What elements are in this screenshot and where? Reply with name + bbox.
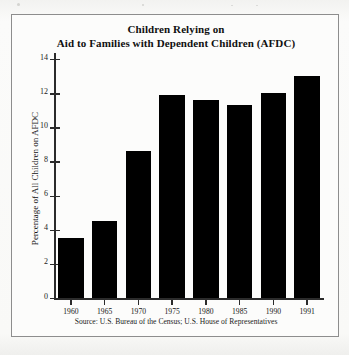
y-tick-mark	[50, 161, 60, 162]
x-tick-mark-1965	[104, 298, 105, 305]
y-tick-mark	[50, 59, 60, 60]
x-tick-label-1991: 1991	[300, 307, 315, 316]
y-tick-label: 10	[40, 121, 48, 130]
x-axis-line	[54, 298, 324, 300]
x-tick-label-1965: 1965	[97, 307, 112, 316]
x-tick-label-1980: 1980	[198, 307, 213, 316]
y-tick-label: 4	[44, 223, 48, 232]
chart-title-line-2: Aid to Families with Dependent Children …	[12, 37, 340, 51]
y-tick-mark	[50, 298, 60, 299]
y-tick-mark	[50, 196, 60, 197]
chart-figure-frame: Children Relying on Aid to Families with…	[11, 14, 339, 337]
y-tick-mark	[50, 93, 60, 94]
x-tick-label-1970: 1970	[131, 307, 146, 316]
chart-title-line-1: Children Relying on	[127, 23, 224, 35]
x-tick-mark-1990	[273, 298, 274, 305]
x-tick-mark-1985	[239, 298, 240, 305]
x-tick-label-1975: 1975	[165, 307, 180, 316]
plot-area: Percentage of All Children on AFDC 02468…	[54, 59, 324, 298]
y-tick-label: 8	[44, 155, 48, 164]
y-tick-label: 14	[40, 53, 48, 62]
bar-1991	[294, 76, 320, 298]
bar-1975	[159, 95, 185, 298]
scan-speck	[142, 4, 144, 6]
bar-1970	[126, 151, 152, 298]
x-tick-label-1990: 1990	[266, 307, 281, 316]
x-tick-mark-1970	[138, 298, 139, 305]
x-tick-mark-1975	[171, 298, 172, 305]
chart-title: Children Relying on Aid to Families with…	[12, 23, 340, 50]
x-tick-label-1985: 1985	[232, 307, 247, 316]
x-tick-mark-1991	[306, 298, 307, 305]
y-tick-label: 12	[40, 87, 48, 96]
y-tick-label: 0	[44, 292, 48, 301]
y-tick-label: 6	[44, 189, 48, 198]
bar-1960	[58, 238, 84, 298]
x-tick-mark-1980	[205, 298, 206, 305]
bar-1985	[227, 105, 253, 298]
scan-speck	[256, 5, 258, 6]
x-tick-mark-1960	[70, 298, 71, 305]
source-note: Source: U.S. Bureau of the Census; U.S. …	[12, 317, 340, 326]
bar-1965	[92, 221, 118, 298]
y-tick-mark	[50, 230, 60, 231]
scan-speck	[231, 5, 233, 6]
y-tick-mark	[50, 127, 60, 128]
y-axis-line	[54, 53, 56, 298]
scan-speck	[17, 3, 20, 6]
bar-1980	[193, 100, 219, 298]
bar-1990	[261, 93, 287, 298]
x-tick-label-1960: 1960	[63, 307, 78, 316]
y-tick-label: 2	[44, 257, 48, 266]
